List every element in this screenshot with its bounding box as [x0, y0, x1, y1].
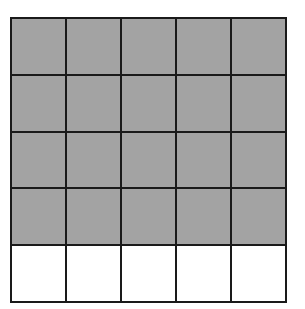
- shaded-cell: [177, 19, 232, 76]
- unshaded-cell: [177, 246, 232, 303]
- shaded-cell: [177, 189, 232, 246]
- shaded-cell: [122, 19, 177, 76]
- shaded-cell: [177, 76, 232, 133]
- shaded-cell: [232, 133, 287, 190]
- unshaded-cell: [12, 246, 67, 303]
- shaded-cell: [12, 133, 67, 190]
- unshaded-cell: [67, 246, 122, 303]
- shaded-cell: [177, 133, 232, 190]
- shaded-cell: [122, 76, 177, 133]
- shaded-cell: [12, 189, 67, 246]
- shaded-cell: [12, 19, 67, 76]
- fraction-grid: [10, 17, 287, 303]
- shaded-cell: [232, 76, 287, 133]
- shaded-cell: [67, 76, 122, 133]
- shaded-cell: [12, 76, 67, 133]
- unshaded-cell: [122, 246, 177, 303]
- shaded-cell: [122, 133, 177, 190]
- shaded-cell: [67, 133, 122, 190]
- shaded-cell: [67, 19, 122, 76]
- shaded-cell: [232, 19, 287, 76]
- shaded-cell: [67, 189, 122, 246]
- shaded-cell: [122, 189, 177, 246]
- unshaded-cell: [232, 246, 287, 303]
- shaded-cell: [232, 189, 287, 246]
